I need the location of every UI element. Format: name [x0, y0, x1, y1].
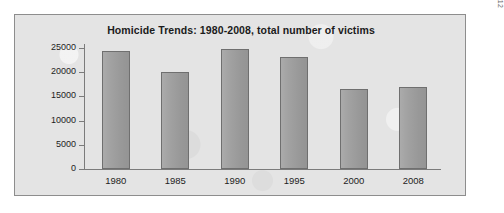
y-axis-tick-label: 0 [71, 163, 76, 173]
bar [102, 51, 130, 169]
y-axis-tick-mark [79, 48, 84, 49]
x-axis-line [84, 169, 441, 170]
y-axis-tick-mark [79, 72, 84, 73]
y-axis-tick-label: 20000 [51, 66, 76, 76]
x-axis-tick-label: 1995 [265, 175, 325, 186]
y-axis-tick-label: 15000 [51, 90, 76, 100]
bar [161, 72, 189, 169]
y-axis-tick-label: 25000 [51, 42, 76, 52]
bar-shading [281, 58, 307, 168]
x-axis-tick-label: 2008 [384, 175, 444, 186]
plot-area: 0500010000150002000025000 19801985199019… [84, 48, 441, 169]
bar [280, 57, 308, 169]
bar [340, 89, 368, 169]
x-axis-tick-label: 2000 [324, 175, 384, 186]
bar [221, 49, 249, 169]
x-axis-tick-label: 1990 [205, 175, 265, 186]
bar-shading [222, 50, 248, 168]
bar-shading [103, 52, 129, 168]
y-axis-tick-mark [79, 121, 84, 122]
y-axis-tick-mark [79, 96, 84, 97]
bar-shading [400, 88, 426, 168]
chart-title: Homicide Trends: 1980-2008, total number… [15, 24, 467, 36]
y-axis-tick-mark [79, 169, 84, 170]
y-axis-tick-label: 10000 [51, 115, 76, 125]
x-axis-tick-label: 1980 [86, 175, 146, 186]
source-credit: Source: U.S. Census, Statistical Abstrac… [497, 0, 504, 8]
chart-panel: Homicide Trends: 1980-2008, total number… [14, 14, 466, 196]
x-axis-tick-label: 1985 [146, 175, 206, 186]
y-axis-tick-label: 5000 [56, 139, 76, 149]
y-axis-line [84, 44, 85, 169]
y-axis-tick-mark [79, 145, 84, 146]
bar [399, 87, 427, 169]
bar-shading [341, 90, 367, 168]
bar-shading [162, 73, 188, 168]
